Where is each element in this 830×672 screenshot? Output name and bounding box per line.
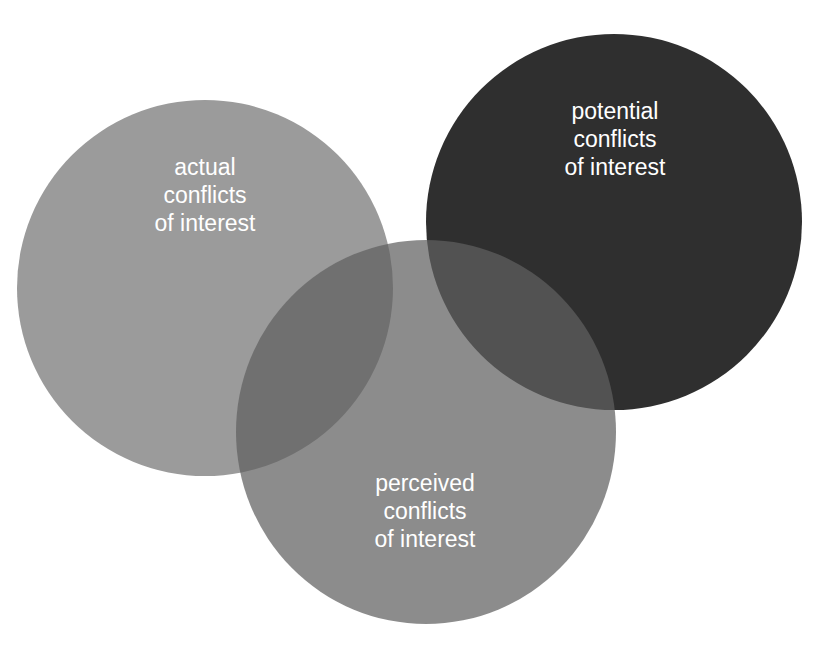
label-line: actual [95,153,315,181]
label-line: potential [505,97,725,125]
label-actual-conflicts: actual conflicts of interest [95,153,315,237]
venn-diagram: actual conflicts of interest potential c… [0,0,830,672]
label-line: of interest [505,153,725,181]
label-line: conflicts [315,497,535,525]
label-line: conflicts [505,125,725,153]
label-line: of interest [315,525,535,553]
label-line: of interest [95,209,315,237]
label-line: conflicts [95,181,315,209]
label-perceived-conflicts: perceived conflicts of interest [315,469,535,553]
label-potential-conflicts: potential conflicts of interest [505,97,725,181]
circle-perceived-conflicts [236,240,616,624]
label-line: perceived [315,469,535,497]
